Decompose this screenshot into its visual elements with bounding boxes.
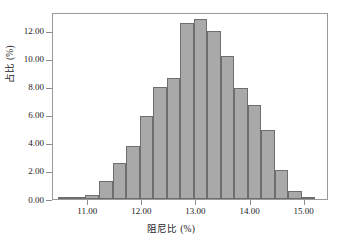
histogram-bar xyxy=(302,197,316,199)
x-axis-tick xyxy=(141,200,142,205)
x-axis-tick xyxy=(87,200,88,205)
y-axis-tick xyxy=(46,88,52,89)
y-axis-tick-label: 0.00 xyxy=(28,196,44,205)
bars-container xyxy=(53,14,327,199)
y-axis-tick-label: 12.00 xyxy=(24,27,44,36)
histogram-bar xyxy=(72,197,86,199)
histogram-bar xyxy=(234,88,248,199)
histogram-bar xyxy=(248,105,262,199)
y-axis-tick xyxy=(46,116,52,117)
histogram-bar xyxy=(207,31,221,199)
x-axis-tick-label: 15.00 xyxy=(294,207,314,216)
x-axis-tick-label: 11.00 xyxy=(77,207,97,216)
x-axis-tick xyxy=(195,200,196,205)
x-axis-tick-label: 12.00 xyxy=(131,207,151,216)
y-axis-tick-label: 10.00 xyxy=(24,55,44,64)
histogram-bar xyxy=(275,170,289,199)
histogram-bar xyxy=(153,87,167,199)
histogram-bar xyxy=(194,19,208,199)
y-axis-tick xyxy=(46,32,52,33)
histogram-bar xyxy=(288,191,302,199)
plot-area xyxy=(52,13,328,200)
x-axis-tick xyxy=(250,200,251,205)
histogram-bar xyxy=(261,130,275,199)
histogram-bar xyxy=(85,195,99,199)
y-axis-tick-label: 2.00 xyxy=(28,167,44,176)
y-axis-tick-label: 6.00 xyxy=(28,111,44,120)
y-axis-tick xyxy=(46,144,52,145)
histogram-bar xyxy=(58,197,72,199)
x-axis-tick xyxy=(304,200,305,205)
histogram-bar xyxy=(167,78,181,199)
y-axis-tick-label: 8.00 xyxy=(28,83,44,92)
x-axis-title: 阻尼比 (%) xyxy=(0,221,342,235)
y-axis-title: 占比 (%) xyxy=(2,45,16,83)
y-axis-tick xyxy=(46,172,52,173)
y-axis-tick xyxy=(46,60,52,61)
histogram-bar xyxy=(113,163,127,199)
histogram-bar xyxy=(180,23,194,199)
histogram-bar xyxy=(140,116,154,199)
histogram-bar xyxy=(126,146,140,199)
histogram-bar xyxy=(99,181,113,199)
x-axis-tick-label: 13.00 xyxy=(185,207,205,216)
histogram-figure: 0.002.004.006.008.0010.0012.00 11.0012.0… xyxy=(0,0,342,246)
histogram-bar xyxy=(221,56,235,199)
y-axis-tick-label: 4.00 xyxy=(28,139,44,148)
y-axis-tick xyxy=(46,200,52,201)
x-axis-tick-label: 14.00 xyxy=(239,207,259,216)
